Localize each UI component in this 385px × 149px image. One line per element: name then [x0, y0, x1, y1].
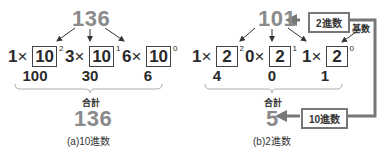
value-a-2: 6: [128, 67, 168, 84]
base-box: 2: [326, 46, 347, 67]
tag-binary: 2進数: [308, 12, 350, 33]
value-b-0: 4: [197, 67, 237, 84]
value-a-0: 100: [15, 67, 55, 84]
tag-decimal: 10進数: [301, 108, 348, 129]
value-b-2: 1: [305, 67, 345, 84]
decimal-number: 136: [72, 6, 110, 32]
base-box: 2: [269, 46, 290, 67]
term-b-0: 1× 22: [192, 46, 244, 67]
brace-b: [205, 84, 342, 93]
exponent: 1: [116, 44, 120, 53]
term-a-0: 1× 102: [8, 46, 64, 67]
exponent: 2: [240, 44, 244, 53]
base-box: 10: [32, 46, 57, 67]
term-a-1: 3× 101: [65, 46, 121, 67]
base-label: 基数: [352, 22, 370, 35]
term-b-1: 0× 21: [245, 46, 297, 67]
base-box: 10: [146, 46, 171, 67]
base-box: 2: [216, 46, 237, 67]
binary-number: 101: [258, 6, 296, 32]
caption-a: (a)10進数: [67, 133, 110, 148]
caption-b: (b)2進数: [253, 133, 291, 148]
term-b-2: 1× 20: [302, 46, 354, 67]
exponent: 1: [293, 44, 297, 53]
decimal-result: 136: [74, 106, 112, 132]
base-box: 10: [89, 46, 114, 67]
term-a-2: 6× 100: [122, 46, 178, 67]
value-b-1: 0: [252, 67, 292, 84]
brace-a: [15, 84, 162, 93]
exponent: 2: [59, 44, 63, 53]
binary-result-decimal: 5: [266, 106, 279, 132]
exponent: 0: [350, 44, 354, 53]
exponent: 0: [173, 44, 177, 53]
value-a-1: 30: [70, 67, 110, 84]
